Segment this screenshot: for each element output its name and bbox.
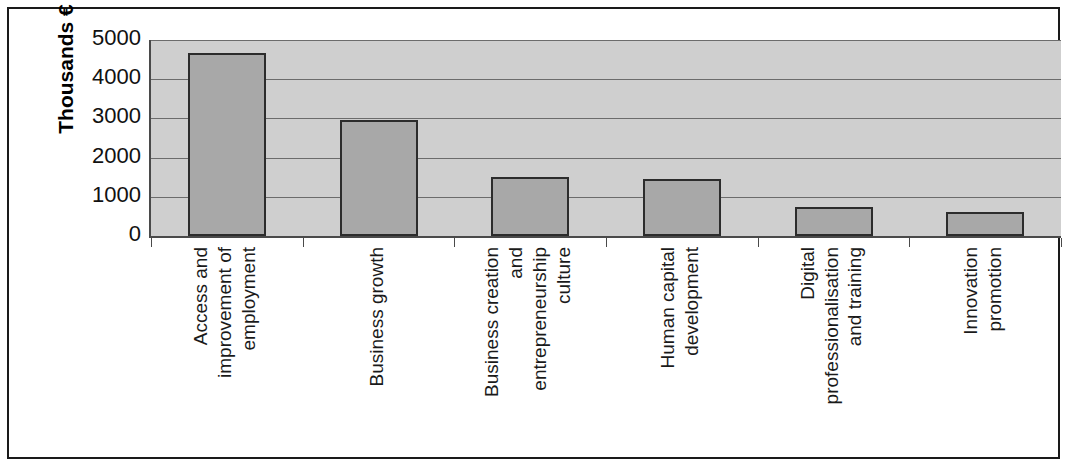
x-axis-category-label: Business growth bbox=[301, 247, 453, 447]
x-axis-category-label: Digitalprofessionalisationand training bbox=[756, 247, 908, 447]
y-axis-tick-label: 1000 bbox=[61, 184, 141, 206]
x-axis-category-label: Business creationandentrepreneurshipcult… bbox=[452, 247, 604, 447]
x-axis-tick-mark bbox=[1061, 238, 1062, 247]
x-axis-category-label-line: professionalisation bbox=[822, 247, 842, 404]
x-axis-tick-mark bbox=[303, 238, 304, 247]
x-axis-tick-mark bbox=[151, 238, 152, 247]
y-axis-tick-label: 3000 bbox=[61, 105, 141, 127]
x-axis-category-labels: Access andimprovement ofemploymentBusine… bbox=[149, 247, 1059, 453]
x-axis-category-label-line: culture bbox=[554, 247, 574, 304]
x-axis-category-label-line: employment bbox=[239, 247, 259, 351]
bar bbox=[491, 177, 569, 236]
x-axis-category-label: Human capitaldevelopment bbox=[604, 247, 756, 447]
x-axis-category-label-line: Access and bbox=[191, 247, 211, 345]
x-axis-tick-mark bbox=[909, 238, 910, 247]
plot-area bbox=[149, 40, 1061, 238]
x-axis-category-label-line: and bbox=[506, 247, 526, 279]
bar bbox=[795, 207, 873, 236]
bar bbox=[340, 120, 418, 236]
x-axis-category-label: Innovationpromotion bbox=[907, 247, 1059, 447]
x-axis-category-label-line: Digital bbox=[798, 247, 818, 300]
y-axis-tick-label: 2000 bbox=[61, 145, 141, 167]
gridline bbox=[151, 158, 1061, 159]
bar bbox=[946, 212, 1024, 236]
x-axis-category-label-line: Human capital bbox=[658, 247, 678, 368]
x-axis-tick-mark bbox=[606, 238, 607, 247]
y-axis-tick-label: 5000 bbox=[61, 27, 141, 49]
bar bbox=[643, 179, 721, 236]
y-axis-tick-label: 4000 bbox=[61, 66, 141, 88]
y-axis-tick-labels: 500040003000200010000 bbox=[61, 40, 141, 236]
x-axis-category-label-line: development bbox=[682, 247, 702, 356]
x-axis-category-label-line: Business creation bbox=[482, 247, 502, 397]
x-axis-category-label-line: Business growth bbox=[367, 247, 387, 386]
bar bbox=[188, 53, 266, 236]
x-axis-tick-mark bbox=[454, 238, 455, 247]
chart-figure-frame: Thousands € 500040003000200010000 Access… bbox=[7, 7, 1060, 459]
gridline bbox=[151, 197, 1061, 198]
x-axis-category-label-line: promotion bbox=[985, 247, 1005, 332]
y-axis-tick-label: 0 bbox=[61, 223, 141, 245]
gridline bbox=[151, 118, 1061, 119]
x-axis-category-label-line: and training bbox=[845, 247, 865, 346]
bar-chart: Thousands € 500040003000200010000 Access… bbox=[9, 9, 1062, 461]
x-axis-category-label-line: Innovation bbox=[961, 247, 981, 335]
x-axis-category-label: Access andimprovement ofemployment bbox=[149, 247, 301, 447]
x-axis-tick-mark bbox=[758, 238, 759, 247]
x-axis-category-label-line: improvement of bbox=[215, 247, 235, 378]
x-axis-category-label-line: entrepreneurship bbox=[530, 247, 550, 391]
gridline bbox=[151, 79, 1061, 80]
gridline bbox=[151, 40, 1061, 41]
